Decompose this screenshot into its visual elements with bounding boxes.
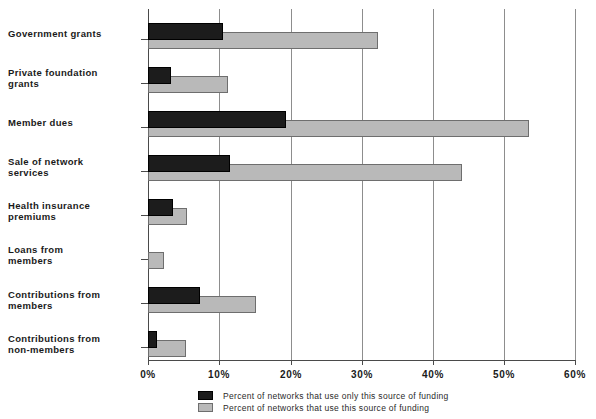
gridline-20 <box>291 9 292 360</box>
gridline-30 <box>362 9 363 360</box>
x-tick-label-20: 20% <box>280 369 302 380</box>
x-tick-10 <box>219 360 220 365</box>
category-tick-0 <box>141 39 148 40</box>
bar-dark-contributions-from-non-members <box>148 331 157 348</box>
legend-swatch-light-icon <box>198 403 213 412</box>
x-tick-label-0: 0% <box>140 369 156 380</box>
gridline-60 <box>575 9 576 360</box>
bar-dark-government-grants <box>148 23 223 40</box>
bar-dark-contributions-from-members <box>148 287 200 304</box>
gridline-40 <box>433 9 434 360</box>
x-tick-0 <box>148 360 149 365</box>
category-label-sale-of-network-services: Sale of network services <box>8 156 140 178</box>
x-tick-30 <box>362 360 363 365</box>
category-label-health-insurance-premiums: Health insurance premiums <box>8 200 140 222</box>
gridline-50 <box>504 9 505 360</box>
category-label-contributions-from-members: Contributions from members <box>8 289 140 311</box>
legend-item-only-source: Percent of networks that use only this s… <box>198 390 558 401</box>
x-tick-label-30: 30% <box>351 369 373 380</box>
category-tick-4 <box>141 215 148 216</box>
category-tick-1 <box>141 83 148 84</box>
bar-light-loans-from-members <box>148 252 164 269</box>
category-label-contributions-from-non-members: Contributions from non-members <box>8 333 140 355</box>
bar-dark-member-dues <box>148 111 286 128</box>
category-tick-5 <box>141 259 148 260</box>
x-tick-60 <box>575 360 576 365</box>
x-tick-50 <box>504 360 505 365</box>
chart-legend: Percent of networks that use only this s… <box>198 390 558 414</box>
plot-area: 0% 10% 20% 30% 40% 50% 60% <box>148 9 576 360</box>
category-tick-2 <box>141 127 148 128</box>
category-tick-6 <box>141 303 148 304</box>
category-tick-3 <box>141 171 148 172</box>
category-label-private-foundation-grants: Private foundation grants <box>8 67 140 89</box>
x-tick-label-10: 10% <box>208 369 230 380</box>
bar-dark-sale-of-network-services <box>148 155 230 172</box>
legend-item-source: Percent of networks that use this source… <box>198 402 558 413</box>
category-tick-7 <box>141 347 148 348</box>
x-tick-label-60: 60% <box>564 369 586 380</box>
x-tick-20 <box>291 360 292 365</box>
category-label-member-dues: Member dues <box>8 117 140 128</box>
bar-dark-health-insurance-premiums <box>148 199 173 216</box>
category-label-loans-from-members: Loans from members <box>8 244 140 266</box>
x-tick-label-40: 40% <box>422 369 444 380</box>
legend-label-only-source: Percent of networks that use only this s… <box>223 391 449 401</box>
x-tick-40 <box>433 360 434 365</box>
legend-swatch-dark-icon <box>198 391 213 400</box>
category-label-government-grants: Government grants <box>8 28 140 39</box>
bar-chart-figure: Government grants Private foundation gra… <box>0 0 596 419</box>
legend-label-source: Percent of networks that use this source… <box>223 403 429 413</box>
x-tick-label-50: 50% <box>493 369 515 380</box>
bar-dark-private-foundation-grants <box>148 67 171 84</box>
